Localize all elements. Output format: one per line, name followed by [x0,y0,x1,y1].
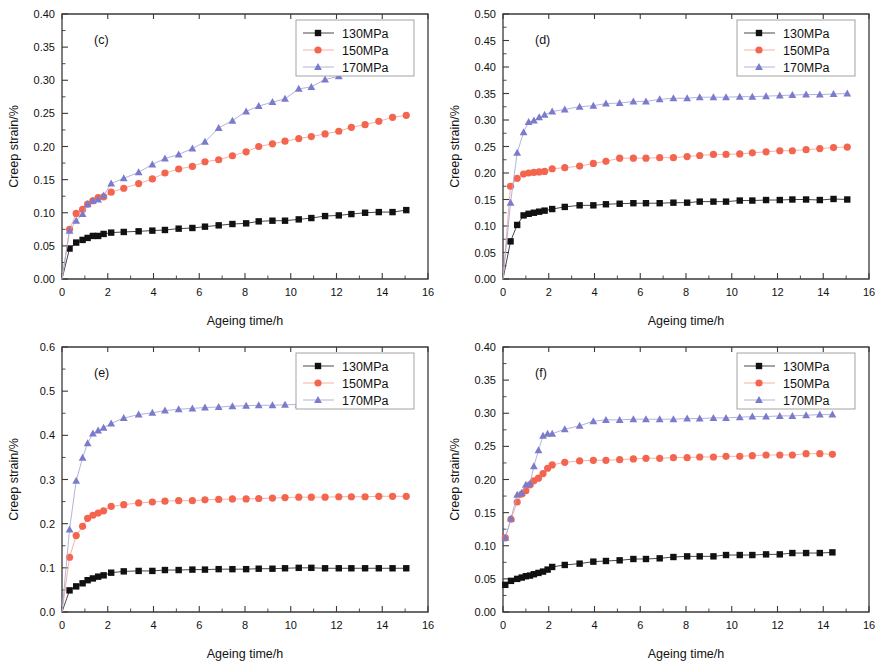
data-point [829,411,837,418]
x-tick-label: 0 [59,619,65,631]
x-tick-label: 2 [546,619,552,631]
data-point [630,155,637,162]
data-point [73,532,80,539]
data-point [817,197,823,203]
data-point [576,457,583,464]
x-tick-label: 8 [242,619,248,631]
data-point [149,568,155,574]
data-point [375,493,382,500]
data-point [643,200,649,206]
data-point [803,196,809,202]
data-point [107,180,115,187]
data-point [802,91,810,98]
data-point [789,196,795,202]
legend-marker [756,30,762,36]
x-tick-label: 14 [376,286,388,298]
data-point [108,569,114,575]
data-point [789,147,796,154]
x-tick-label: 0 [500,286,506,298]
y-tick-label: 0.3 [40,474,55,486]
data-point [243,566,249,572]
data-point [95,573,101,579]
data-point [710,414,718,421]
x-axis-title: Ageing time/h [207,647,283,661]
data-point [541,207,547,213]
legend-label: 170MPa [783,394,830,408]
data-point [507,238,513,244]
series-150MPa [62,493,410,612]
y-tick-label: 0.00 [34,273,55,285]
series-130MPa [503,196,850,279]
data-point [736,93,744,100]
data-point [696,152,703,159]
y-axis-title: Creep strain/% [7,438,21,521]
data-point [576,202,582,208]
data-point [202,223,208,229]
data-point [73,583,79,589]
data-point [541,168,548,175]
data-point [844,143,851,150]
series-130MPa [62,207,409,279]
data-point [215,156,222,163]
y-tick-label: 0.30 [34,74,55,86]
data-point [229,221,235,227]
legend-label: 130MPa [342,27,389,41]
legend: 130MPa150MPa170MPa [296,20,414,76]
data-point [295,135,302,142]
data-point [749,452,756,459]
x-tick-label: 2 [105,619,111,631]
data-point [777,197,783,203]
data-point [148,160,156,167]
x-tick-label: 8 [242,286,248,298]
data-point [135,499,142,506]
data-point [642,155,649,162]
x-tick-label: 10 [285,619,297,631]
data-point [541,111,549,118]
y-tick-label: 0.40 [34,8,55,20]
legend-label: 170MPa [783,61,830,75]
series-150MPa [502,450,836,541]
data-point [269,140,276,147]
y-tick-label: 0.6 [40,341,55,353]
data-point [590,202,596,208]
chart-panel-d: 02468101214160.000.050.100.150.200.250.3… [441,0,882,333]
legend-label: 130MPa [342,360,389,374]
data-point [73,239,79,245]
data-point [844,196,850,202]
data-point [229,495,236,502]
data-point [135,228,141,234]
data-point [530,462,538,469]
y-tick-label: 0.40 [475,341,496,353]
data-point [696,93,704,100]
data-point [215,222,221,228]
data-point [763,551,769,557]
data-point [321,494,328,501]
legend: 130MPa150MPa170MPa [737,353,855,409]
data-point [403,207,409,213]
y-tick-label: 0.40 [475,61,496,73]
data-point [229,152,236,159]
x-tick-label: 2 [546,286,552,298]
y-tick-label: 0.00 [475,606,496,618]
data-point [763,197,769,203]
data-point [107,419,115,426]
chart-panel-c: 02468101214160.000.050.100.150.200.250.3… [0,0,441,333]
data-point [710,151,717,158]
legend-marker [314,46,321,53]
data-point [361,493,368,500]
data-point [656,555,662,561]
data-point [843,90,851,97]
series-170MPa [503,90,851,280]
data-point [749,197,755,203]
data-point [296,565,302,571]
y-tick-label: 0.2 [40,518,55,530]
data-point [201,496,208,503]
data-point [135,180,142,187]
data-point [376,565,382,571]
y-tick-label: 0.20 [34,141,55,153]
data-point [817,550,823,556]
data-point [403,112,410,119]
y-tick-label: 0.30 [475,114,496,126]
legend-marker [756,363,762,369]
data-point [602,457,609,464]
